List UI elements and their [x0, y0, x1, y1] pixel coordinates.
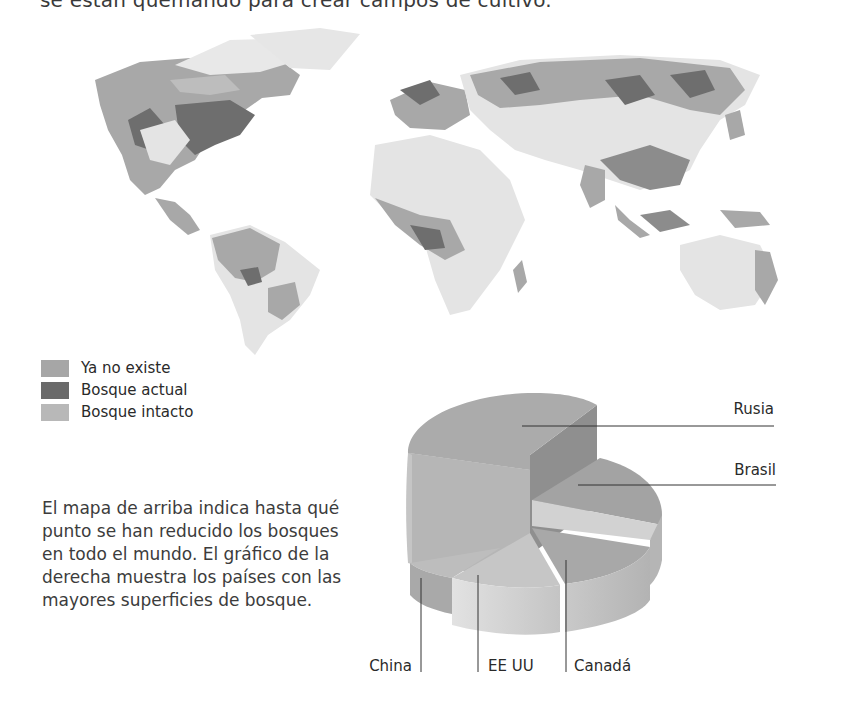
south-america: [210, 225, 320, 355]
pie-label-canada: Canadá: [574, 657, 631, 675]
world-forest-map: [0, 20, 850, 360]
legend-label: Ya no existe: [81, 359, 170, 377]
legend-label: Bosque actual: [81, 381, 188, 399]
pie-label-brasil: Brasil: [734, 461, 776, 479]
pie-slice-brasil: [532, 458, 662, 585]
callout-lines: [421, 426, 776, 672]
legend-item-bosque-intacto: Bosque intacto: [41, 401, 193, 423]
pie-label-china: China: [369, 657, 412, 675]
legend-item-ya-no-existe: Ya no existe: [41, 357, 193, 379]
pie-label-eeuu: EE UU: [488, 657, 534, 675]
legend-label: Bosque intacto: [81, 403, 193, 421]
caption-text: El mapa de arriba indica hasta qué punto…: [42, 497, 342, 612]
pie-slice-canada: [532, 528, 650, 632]
map-legend: Ya no existe Bosque actual Bosque intact…: [41, 357, 193, 423]
pie-slice-eeuu: [452, 533, 560, 635]
legend-swatch-bosque-intacto: [41, 404, 69, 421]
pie-label-rusia: Rusia: [734, 400, 774, 418]
legend-swatch-ya-no-existe: [41, 360, 69, 377]
pie-slice-rusia: [406, 393, 597, 580]
legend-swatch-bosque-actual: [41, 382, 69, 399]
north-america: [95, 28, 360, 235]
cut-off-heading-text: se están quemando para crear campos de c…: [40, 0, 552, 12]
oceania: [615, 205, 778, 310]
legend-item-bosque-actual: Bosque actual: [41, 379, 193, 401]
pie-slice-china: [410, 548, 500, 614]
